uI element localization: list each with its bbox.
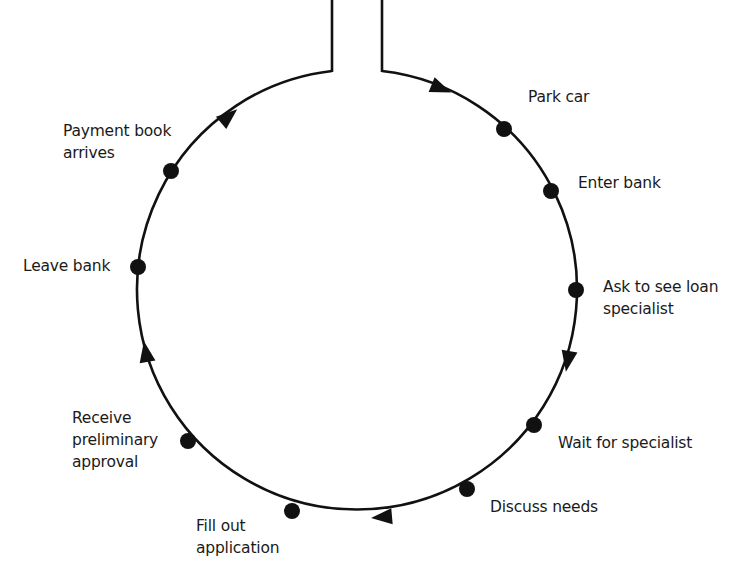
label-park-car: Park car [528, 86, 589, 108]
node-discuss-needs [459, 481, 475, 497]
node-receive-preliminary-approval [180, 433, 196, 449]
node-park-car [496, 121, 512, 137]
node-payment-book-arrives [163, 163, 179, 179]
label-wait-for-specialist: Wait for specialist [558, 432, 692, 454]
arrow-icon [136, 340, 155, 363]
label-payment-book-arrives: Payment book arrives [63, 120, 171, 164]
node-enter-bank [543, 183, 559, 199]
node-leave-bank [130, 259, 146, 275]
label-discuss-needs: Discuss needs [490, 496, 598, 518]
cycle-path [137, 71, 577, 510]
arrow-icon [370, 508, 392, 526]
node-wait-for-specialist [526, 417, 542, 433]
node-fill-out-application [284, 503, 300, 519]
label-receive-preliminary-approval: Receive preliminary approval [72, 407, 158, 473]
arrow-icon [216, 103, 242, 129]
label-fill-out-application: Fill out application [196, 515, 279, 559]
arrow-icon [429, 77, 454, 100]
label-ask-loan-specialist: Ask to see loan specialist [603, 276, 718, 320]
label-enter-bank: Enter bank [578, 172, 661, 194]
node-ask-loan-specialist [568, 282, 584, 298]
label-leave-bank: Leave bank [23, 255, 110, 277]
